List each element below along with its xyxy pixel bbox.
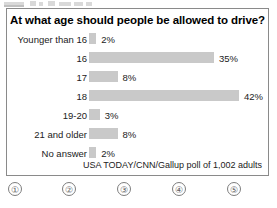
bar-row-label: Younger than 16: [7, 34, 87, 45]
bar-value-label: 42%: [244, 91, 263, 102]
poll-chart-panel: At what age should people be allowed to …: [6, 8, 269, 176]
bar-row: 19-203%: [7, 108, 268, 127]
bar-row-label: No answer: [7, 148, 87, 159]
footer-mark-4[interactable]: ④: [172, 182, 186, 196]
chart-title: At what age should people be allowed to …: [7, 14, 268, 26]
bar-fill: [89, 90, 239, 101]
footer-mark-2[interactable]: ②: [62, 182, 76, 196]
bar-value-label: 2%: [101, 34, 115, 45]
bar-track: 2%: [89, 33, 266, 45]
scan-artifact-strip: [4, 0, 96, 7]
footer-mark-3[interactable]: ③: [117, 182, 131, 196]
bar-fill: [89, 128, 118, 139]
bar-row-label: 16: [7, 53, 87, 64]
bar-track: 2%: [89, 147, 266, 159]
bar-row-label: 18: [7, 91, 87, 102]
footer-mark-1[interactable]: ①: [8, 182, 22, 196]
bar-row: 1635%: [7, 51, 268, 70]
bar-row: Younger than 162%: [7, 32, 268, 51]
bar-fill: [89, 71, 118, 82]
bar-value-label: 8%: [123, 129, 137, 140]
bar-fill: [89, 109, 100, 120]
bar-value-label: 8%: [123, 72, 137, 83]
chart-source-note: USA TODAY/CNN/Gallup poll of 1,002 adult…: [83, 160, 262, 170]
bar-track: 8%: [89, 128, 266, 140]
bar-row: 21 and older8%: [7, 127, 268, 146]
bar-chart-rows: Younger than 162%1635%178%1842%19-203%21…: [7, 32, 268, 165]
bar-track: 8%: [89, 71, 266, 83]
bar-fill: [89, 147, 96, 158]
bar-row-label: 19-20: [7, 110, 87, 121]
bar-value-label: 3%: [105, 110, 119, 121]
bar-value-label: 2%: [101, 148, 115, 159]
bar-fill: [89, 52, 214, 63]
footer-circled-numbers: ①②③④⑤: [0, 182, 277, 206]
bar-fill: [89, 33, 96, 44]
bar-value-label: 35%: [219, 53, 238, 64]
bar-row: 178%: [7, 70, 268, 89]
bar-row-label: 21 and older: [7, 129, 87, 140]
bar-track: 3%: [89, 109, 266, 121]
bar-row: 1842%: [7, 89, 268, 108]
bar-track: 42%: [89, 90, 266, 102]
bar-row-label: 17: [7, 72, 87, 83]
footer-mark-5[interactable]: ⑤: [227, 182, 241, 196]
bar-track: 35%: [89, 52, 266, 64]
